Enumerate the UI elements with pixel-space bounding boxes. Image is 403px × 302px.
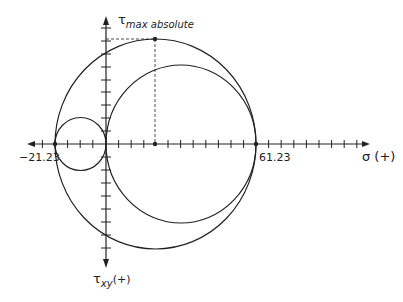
tau-axis-subscript: xy [101, 278, 113, 289]
left-arrow-icon [27, 141, 35, 147]
tau-max-symbol: τ [118, 12, 126, 27]
tau-axis-label: τxy(+) [93, 271, 130, 286]
sigma-axis-label: σ (+) [362, 149, 395, 164]
sigma-max-value: 61.23 [259, 151, 291, 164]
mohr-circle-diagram [0, 0, 403, 302]
tau-max-point [153, 37, 157, 41]
tau-axis-symbol: τ [93, 271, 101, 286]
right-arrow-icon [362, 141, 370, 147]
sigma-axis [27, 140, 370, 148]
up-arrow-icon [103, 16, 109, 25]
tau-max-subscript: max absolute [126, 19, 194, 30]
tau-axis-suffix: (+) [113, 273, 131, 286]
tau-max-label: τmax absolute [118, 12, 194, 27]
sigma-min-point [53, 142, 57, 146]
sigma-max-point [254, 142, 258, 146]
sigma-min-value: −21.23 [19, 151, 60, 164]
center-point [153, 142, 157, 146]
down-arrow-icon [103, 259, 109, 268]
